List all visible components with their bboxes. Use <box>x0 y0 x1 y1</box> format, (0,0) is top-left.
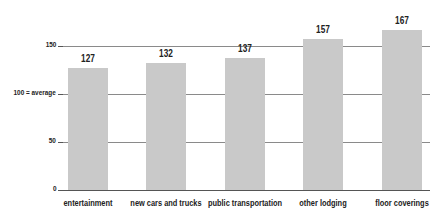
bar-value-label: 127 <box>66 52 111 64</box>
x-tick-label: floor coverings <box>355 197 444 208</box>
bar-value-label: 157 <box>301 23 346 35</box>
y-tick-label: 150 <box>45 40 56 49</box>
bar-value-label: 132 <box>144 47 189 59</box>
bar-value-label: 167 <box>380 14 425 26</box>
y-tick-label: 50 <box>49 136 56 145</box>
bar-public-transportation <box>225 58 265 190</box>
bar-other-lodging <box>303 39 343 190</box>
y-tick-label: 100 = average <box>14 88 56 97</box>
bar-entertainment <box>68 68 108 190</box>
y-tick-label: 0 <box>52 184 56 193</box>
bar-value-label: 137 <box>223 42 268 54</box>
bar-floor-coverings <box>382 30 422 190</box>
x-axis-baseline <box>63 190 430 191</box>
bar-chart: 050100 = average150 127132137157167 ente… <box>0 0 444 219</box>
bar-new-cars-and-trucks <box>146 63 186 190</box>
